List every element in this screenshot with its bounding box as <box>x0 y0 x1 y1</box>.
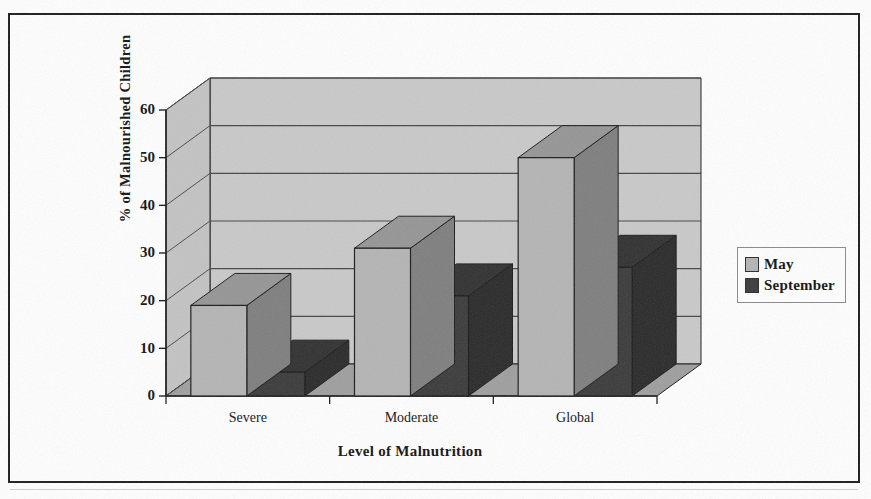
legend-swatch-september <box>745 278 759 293</box>
bar-global-may <box>518 158 574 396</box>
y-tick-label: 30 <box>140 244 155 260</box>
y-tick-label: 60 <box>140 101 155 117</box>
bar-severe-may <box>191 305 247 396</box>
legend-label-may: May <box>764 256 794 273</box>
x-axis-title: Level of Malnutrition <box>160 443 660 460</box>
chart-figure: % of Malnourished Children 0102030405060… <box>0 0 871 499</box>
bar-side-face <box>574 126 618 396</box>
x-category-label: Severe <box>229 410 267 425</box>
legend-swatch-may <box>745 257 759 272</box>
x-category-label: Moderate <box>385 410 439 425</box>
y-tick-label: 50 <box>140 149 155 165</box>
chart-legend: May September <box>737 247 846 303</box>
bar-moderate-may <box>355 248 411 396</box>
legend-item-may: May <box>745 254 835 275</box>
x-category-label: Global <box>556 410 594 425</box>
y-tick-label: 20 <box>140 292 155 308</box>
y-tick-label: 10 <box>140 340 155 356</box>
legend-label-september: September <box>764 277 835 294</box>
y-tick-label: 0 <box>148 387 156 403</box>
y-tick-label: 40 <box>140 197 155 213</box>
legend-item-september: September <box>745 275 835 296</box>
